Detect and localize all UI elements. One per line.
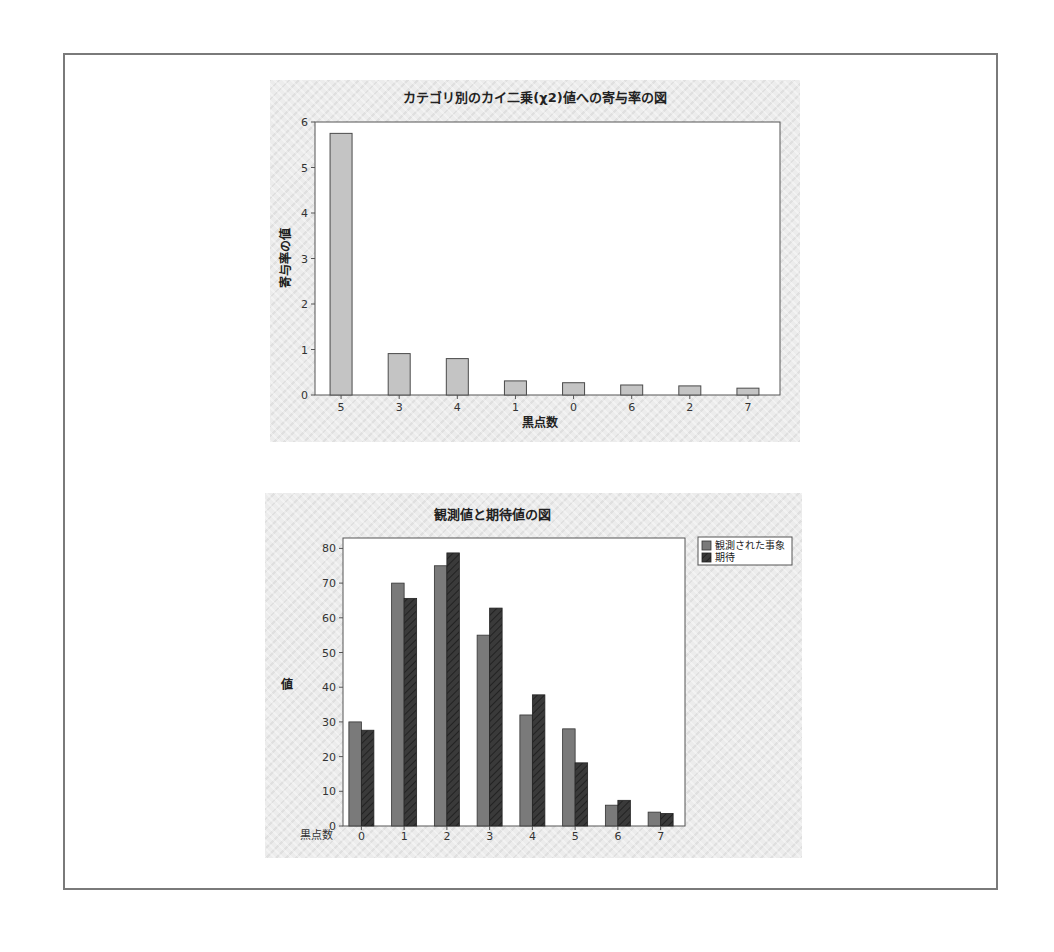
y-tick-label: 3 bbox=[301, 253, 308, 266]
bar bbox=[446, 359, 468, 395]
x-tick-label: 4 bbox=[454, 401, 461, 414]
bar-observed bbox=[434, 566, 447, 826]
x-tick-label: 2 bbox=[686, 401, 693, 414]
x-tick-label: 2 bbox=[443, 830, 450, 843]
x-tick-label: 1 bbox=[401, 830, 408, 843]
bar-expected bbox=[447, 553, 460, 826]
bar-expected bbox=[618, 800, 631, 826]
legend-label-expected: 期待 bbox=[715, 551, 735, 563]
chart1-title: カテゴリ別のカイ二乗(χ2)値への寄与率の図 bbox=[403, 90, 666, 105]
chart2-y-axis: 01020304050607080 bbox=[322, 542, 343, 833]
chart2-x-axis: 01234567 bbox=[358, 826, 664, 843]
chart1-x-axis: 53410627 bbox=[338, 395, 752, 414]
x-tick-label: 7 bbox=[657, 830, 664, 843]
legend-swatch-expected bbox=[702, 553, 711, 562]
bar-observed bbox=[520, 715, 533, 826]
bar bbox=[737, 388, 759, 395]
y-tick-label: 6 bbox=[301, 116, 308, 129]
bar bbox=[504, 381, 526, 395]
chart1-y-label: 寄与率の値 bbox=[278, 228, 293, 288]
bar bbox=[388, 354, 410, 395]
bar-expected bbox=[661, 814, 674, 826]
bar-observed bbox=[349, 722, 362, 826]
bar-observed bbox=[563, 729, 576, 826]
bar bbox=[330, 133, 352, 395]
bar-observed bbox=[392, 583, 405, 826]
bar bbox=[621, 385, 643, 395]
y-tick-label: 70 bbox=[322, 577, 336, 590]
x-tick-label: 4 bbox=[529, 830, 536, 843]
bar-observed bbox=[605, 805, 618, 826]
x-tick-label: 5 bbox=[572, 830, 579, 843]
observed-expected-chart: 観測値と期待値の図 01020304050607080 01234567 値 黒… bbox=[265, 493, 802, 858]
y-tick-label: 60 bbox=[322, 612, 336, 625]
bar-observed bbox=[477, 635, 490, 826]
y-tick-label: 50 bbox=[322, 647, 336, 660]
chart2-legend: 観測された事象 期待 bbox=[698, 537, 792, 565]
bar-expected bbox=[404, 598, 417, 826]
y-tick-label: 5 bbox=[301, 162, 308, 175]
y-tick-label: 2 bbox=[301, 298, 308, 311]
chart2-y-label: 値 bbox=[280, 677, 293, 692]
bar-expected bbox=[490, 608, 503, 826]
chart2-svg: 観測値と期待値の図 01020304050607080 01234567 値 黒… bbox=[265, 493, 802, 858]
bar bbox=[563, 383, 585, 395]
legend-label-observed: 観測された事象 bbox=[715, 539, 785, 551]
bar-expected bbox=[361, 730, 374, 826]
y-tick-label: 40 bbox=[322, 681, 336, 694]
y-tick-label: 30 bbox=[322, 716, 336, 729]
x-tick-label: 5 bbox=[338, 401, 345, 414]
chart2-x-label: 黒点数 bbox=[300, 829, 333, 842]
chart2-title: 観測値と期待値の図 bbox=[433, 507, 551, 522]
y-tick-label: 80 bbox=[322, 542, 336, 555]
y-tick-label: 4 bbox=[301, 207, 308, 220]
y-tick-label: 10 bbox=[322, 785, 336, 798]
chart1-plot-area bbox=[315, 122, 780, 395]
legend-swatch-observed bbox=[702, 541, 711, 550]
x-tick-label: 0 bbox=[570, 401, 577, 414]
chi-square-contribution-chart: カテゴリ別のカイ二乗(χ2)値への寄与率の図 0123456 53410627 … bbox=[270, 80, 800, 442]
y-tick-label: 0 bbox=[301, 389, 308, 402]
x-tick-label: 0 bbox=[358, 830, 365, 843]
bar-expected bbox=[575, 763, 588, 826]
bar-observed bbox=[648, 812, 661, 826]
y-tick-label: 20 bbox=[322, 751, 336, 764]
chart1-x-label: 黒点数 bbox=[522, 415, 559, 430]
chart1-y-axis: 0123456 bbox=[301, 116, 315, 402]
chart1-svg: カテゴリ別のカイ二乗(χ2)値への寄与率の図 0123456 53410627 … bbox=[270, 80, 800, 442]
bar-expected bbox=[532, 695, 545, 826]
x-tick-label: 7 bbox=[744, 401, 751, 414]
x-tick-label: 6 bbox=[628, 401, 635, 414]
x-tick-label: 3 bbox=[396, 401, 403, 414]
x-tick-label: 6 bbox=[614, 830, 621, 843]
x-tick-label: 3 bbox=[486, 830, 493, 843]
bar bbox=[679, 386, 701, 395]
x-tick-label: 1 bbox=[512, 401, 519, 414]
y-tick-label: 1 bbox=[301, 344, 308, 357]
